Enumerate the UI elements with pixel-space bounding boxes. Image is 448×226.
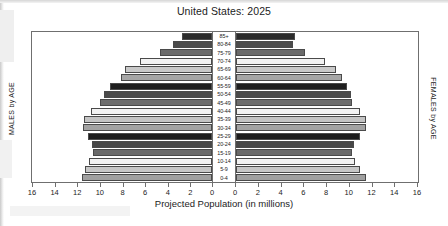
- right-axis-label-females-by-age: FEMALES by AGE: [430, 70, 437, 148]
- female-bar-row: [236, 166, 418, 173]
- female-bar-0-4: [236, 174, 366, 181]
- female-bar-row: [236, 66, 418, 73]
- female-bar-row: [236, 83, 418, 90]
- male-bar-row: [32, 149, 212, 156]
- male-bar-row: [32, 108, 212, 115]
- male-bar-row: [32, 91, 212, 98]
- population-pyramid-figure: United States: 2025 MALES by AGE FEMALES…: [0, 0, 448, 226]
- female-bar-15-19: [236, 149, 352, 156]
- male-bar-5-9: [85, 166, 212, 173]
- age-label-70-74: 70-74: [212, 58, 236, 64]
- female-tick: [235, 183, 236, 187]
- female-bar-row: [236, 149, 418, 156]
- male-tick: [168, 183, 169, 187]
- female-bar-row: [236, 116, 418, 123]
- female-tick: [417, 183, 418, 187]
- female-bar-75-79: [236, 49, 305, 56]
- male-tick-label-10: 10: [91, 188, 109, 197]
- age-group-labels: 85+80-8475-7970-7465-6960-6455-5950-5445…: [212, 32, 236, 182]
- female-tick-label-6: 6: [294, 188, 312, 197]
- female-bar-row: [236, 91, 418, 98]
- female-tick-label-0: 0: [226, 188, 244, 197]
- female-bar-row: [236, 33, 418, 40]
- female-tick: [303, 183, 304, 187]
- male-tick-label-12: 12: [68, 188, 86, 197]
- male-bar-85+: [182, 33, 212, 40]
- male-bar-80-84: [173, 41, 212, 48]
- male-tick-label-2: 2: [181, 188, 199, 197]
- male-bar-row: [32, 41, 212, 48]
- male-bar-row: [32, 66, 212, 73]
- female-bar-row: [236, 141, 418, 148]
- male-tick-label-0: 0: [203, 188, 221, 197]
- age-label-35-39: 35-39: [212, 116, 236, 122]
- male-bar-row: [32, 33, 212, 40]
- male-bar-row: [32, 133, 212, 140]
- female-bar-row: [236, 174, 418, 181]
- male-tick: [100, 183, 101, 187]
- age-label-60-64: 60-64: [212, 75, 236, 81]
- female-bar-70-74: [236, 58, 325, 65]
- female-tick: [258, 183, 259, 187]
- male-bar-15-19: [93, 149, 212, 156]
- female-bar-5-9: [236, 166, 360, 173]
- male-bar-row: [32, 99, 212, 106]
- female-bar-row: [236, 49, 418, 56]
- male-bar-70-74: [140, 58, 212, 65]
- age-label-55-59: 55-59: [212, 83, 236, 89]
- male-bar-35-39: [84, 116, 212, 123]
- age-label-10-14: 10-14: [212, 158, 236, 164]
- male-bar-row: [32, 124, 212, 131]
- female-bar-row: [236, 99, 418, 106]
- male-bars-panel: [32, 32, 212, 182]
- female-bar-85+: [236, 33, 295, 40]
- age-label-0-4: 0-4: [212, 175, 236, 181]
- age-label-15-19: 15-19: [212, 150, 236, 156]
- male-bar-row: [32, 49, 212, 56]
- male-tick-label-6: 6: [136, 188, 154, 197]
- female-bar-row: [236, 133, 418, 140]
- male-bar-row: [32, 174, 212, 181]
- male-bar-30-34: [83, 124, 212, 131]
- age-label-30-34: 30-34: [212, 125, 236, 131]
- age-label-85+: 85+: [212, 33, 236, 39]
- male-bar-row: [32, 158, 212, 165]
- male-tick-label-14: 14: [46, 188, 64, 197]
- male-bar-row: [32, 116, 212, 123]
- age-label-20-24: 20-24: [212, 141, 236, 147]
- chart-title: United States: 2025: [0, 5, 448, 17]
- female-tick: [394, 183, 395, 187]
- female-tick: [349, 183, 350, 187]
- age-label-65-69: 65-69: [212, 66, 236, 72]
- female-bar-80-84: [236, 41, 293, 48]
- female-bar-65-69: [236, 66, 336, 73]
- male-tick: [32, 183, 33, 187]
- female-tick: [326, 183, 327, 187]
- female-bar-row: [236, 74, 418, 81]
- male-tick: [145, 183, 146, 187]
- female-bar-60-64: [236, 74, 342, 81]
- left-axis-label-males-by-age: MALES by AGE: [8, 74, 15, 144]
- female-bar-40-44: [236, 108, 360, 115]
- age-label-25-29: 25-29: [212, 133, 236, 139]
- male-bar-row: [32, 141, 212, 148]
- male-bar-45-49: [100, 99, 213, 106]
- male-bar-65-69: [125, 66, 212, 73]
- male-tick-label-16: 16: [23, 188, 41, 197]
- male-bar-20-24: [92, 141, 212, 148]
- female-bar-50-54: [236, 91, 351, 98]
- male-bar-40-44: [91, 108, 213, 115]
- female-tick-label-16: 16: [408, 188, 426, 197]
- female-tick-label-2: 2: [249, 188, 267, 197]
- female-bar-25-29: [236, 133, 360, 140]
- female-bar-row: [236, 58, 418, 65]
- male-tick: [190, 183, 191, 187]
- male-tick: [212, 183, 213, 187]
- age-label-40-44: 40-44: [212, 108, 236, 114]
- male-bar-10-14: [89, 158, 212, 165]
- male-bar-row: [32, 58, 212, 65]
- male-tick: [77, 183, 78, 187]
- female-tick-label-8: 8: [317, 188, 335, 197]
- female-tick-label-10: 10: [340, 188, 358, 197]
- male-bar-50-54: [104, 91, 212, 98]
